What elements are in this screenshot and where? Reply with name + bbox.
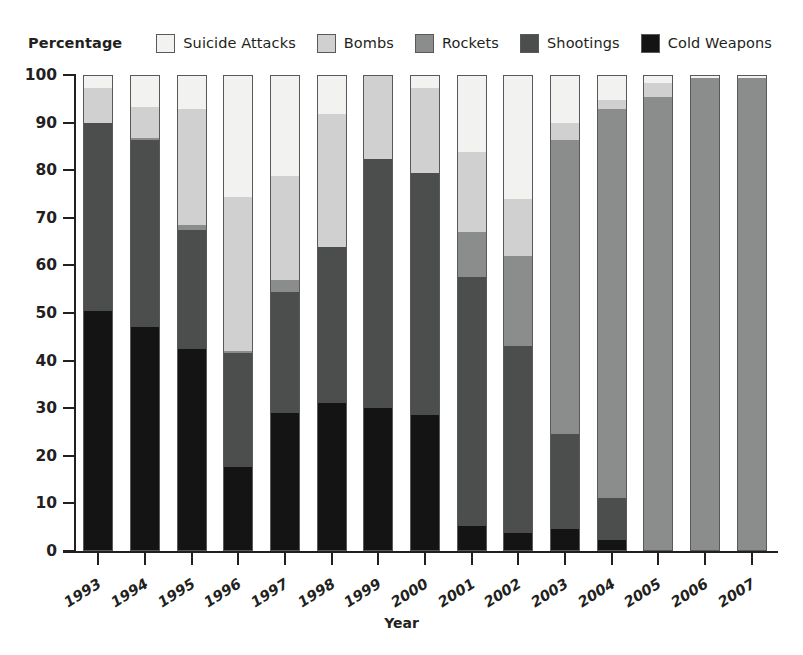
legend-item-bombs[interactable]: Bombs	[317, 34, 394, 53]
bar-1996[interactable]	[223, 75, 253, 551]
bar-segment-2001-suicide[interactable]	[458, 76, 486, 152]
bar-segment-2006-rockets[interactable]	[691, 78, 719, 550]
bar-segment-2001-cold[interactable]	[458, 526, 486, 550]
bar-1994[interactable]	[130, 75, 160, 551]
y-tick-label-0: 0	[46, 542, 57, 560]
legend-label-cold: Cold Weapons	[668, 35, 772, 51]
bar-segment-1993-suicide[interactable]	[84, 76, 112, 88]
bar-2002[interactable]	[503, 75, 533, 551]
bar-segment-2005-bombs[interactable]	[644, 83, 672, 97]
bar-2007[interactable]	[737, 75, 767, 551]
bar-segment-2002-bombs[interactable]	[504, 199, 532, 256]
bar-segment-1999-bombs[interactable]	[364, 76, 392, 159]
legend-item-suicide[interactable]: Suicide Attacks	[156, 34, 296, 53]
y-tick-label-20: 20	[35, 447, 57, 465]
bar-segment-2005-rockets[interactable]	[644, 97, 672, 550]
bar-segment-2002-shootings[interactable]	[504, 346, 532, 533]
bar-segment-2002-rockets[interactable]	[504, 256, 532, 346]
x-tick-label-1993: 1993	[61, 575, 104, 610]
bar-segment-2003-rockets[interactable]	[551, 140, 579, 434]
bar-2003[interactable]	[550, 75, 580, 551]
x-tick-2004	[611, 553, 613, 565]
bar-2001[interactable]	[457, 75, 487, 551]
bar-segment-2002-cold[interactable]	[504, 533, 532, 550]
y-tick-40: 40	[63, 360, 75, 362]
bar-segment-1995-shootings[interactable]	[178, 230, 206, 349]
bar-segment-2000-bombs[interactable]	[411, 88, 439, 173]
bar-segment-1993-cold[interactable]	[84, 311, 112, 550]
bar-segment-1999-cold[interactable]	[364, 408, 392, 550]
bar-segment-1998-bombs[interactable]	[318, 114, 346, 247]
bar-segment-1995-suicide[interactable]	[178, 76, 206, 109]
bar-segment-2000-cold[interactable]	[411, 415, 439, 550]
bar-segment-1996-bombs[interactable]	[224, 197, 252, 351]
bar-segment-1998-shootings[interactable]	[318, 247, 346, 403]
x-tick-2003	[564, 553, 566, 565]
y-tick-70: 70	[63, 217, 75, 219]
bar-segment-2005-suicide[interactable]	[644, 76, 672, 83]
bar-segment-1994-shootings[interactable]	[131, 140, 159, 327]
bar-segment-2003-suicide[interactable]	[551, 76, 579, 123]
bar-2006[interactable]	[690, 75, 720, 551]
bar-1999[interactable]	[363, 75, 393, 551]
legend-label-shootings: Shootings	[547, 35, 620, 51]
x-tick-label-1996: 1996	[201, 575, 244, 610]
bar-segment-1997-cold[interactable]	[271, 413, 299, 550]
bar-segment-1999-shootings[interactable]	[364, 159, 392, 408]
chart-legend: Percentage Suicide AttacksBombsRocketsSh…	[0, 28, 803, 58]
legend-label-rockets: Rockets	[442, 35, 499, 51]
y-tick-label-100: 100	[25, 66, 57, 84]
bar-segment-2003-bombs[interactable]	[551, 123, 579, 140]
legend-item-rockets[interactable]: Rockets	[415, 34, 499, 53]
bar-segment-2004-suicide[interactable]	[598, 76, 626, 100]
bar-segment-2007-rockets[interactable]	[738, 78, 766, 550]
bar-segment-1997-bombs[interactable]	[271, 176, 299, 280]
x-tick-label-2004: 2004	[575, 575, 618, 610]
bar-segment-2001-shootings[interactable]	[458, 277, 486, 526]
bar-segment-2004-rockets[interactable]	[598, 109, 626, 498]
bar-segment-2000-suicide[interactable]	[411, 76, 439, 88]
bar-2005[interactable]	[643, 75, 673, 551]
legend-item-shootings[interactable]: Shootings	[520, 34, 620, 53]
bar-segment-1997-rockets[interactable]	[271, 280, 299, 292]
bar-segment-2003-cold[interactable]	[551, 529, 579, 550]
bar-segment-1998-suicide[interactable]	[318, 76, 346, 114]
bar-segment-2001-bombs[interactable]	[458, 152, 486, 233]
bar-segment-1993-bombs[interactable]	[84, 88, 112, 124]
bar-1997[interactable]	[270, 75, 300, 551]
bar-1993[interactable]	[83, 75, 113, 551]
bar-1998[interactable]	[317, 75, 347, 551]
bar-segment-2004-bombs[interactable]	[598, 100, 626, 109]
bar-segment-1994-bombs[interactable]	[131, 107, 159, 138]
x-tick-1996	[237, 553, 239, 565]
legend-item-cold[interactable]: Cold Weapons	[641, 34, 772, 53]
bar-segment-1993-shootings[interactable]	[84, 123, 112, 310]
bar-segment-2000-shootings[interactable]	[411, 173, 439, 415]
y-tick-label-90: 90	[35, 114, 57, 132]
bar-segment-2004-cold[interactable]	[598, 540, 626, 549]
bar-2004[interactable]	[597, 75, 627, 551]
bar-segment-1997-shootings[interactable]	[271, 292, 299, 413]
bar-1995[interactable]	[177, 75, 207, 551]
bar-segment-1995-cold[interactable]	[178, 349, 206, 550]
x-tick-label-2000: 2000	[388, 575, 431, 610]
bar-segment-1996-suicide[interactable]	[224, 76, 252, 197]
x-tick-1993	[97, 553, 99, 565]
bar-segment-2001-rockets[interactable]	[458, 232, 486, 277]
bar-segment-2004-shootings[interactable]	[598, 498, 626, 541]
bar-2000[interactable]	[410, 75, 440, 551]
legend-swatch-cold-icon	[641, 34, 660, 53]
bar-segment-2002-suicide[interactable]	[504, 76, 532, 199]
x-tick-2001	[471, 553, 473, 565]
legend-label-bombs: Bombs	[344, 35, 394, 51]
bar-segment-2003-shootings[interactable]	[551, 434, 579, 529]
bar-segment-1996-cold[interactable]	[224, 467, 252, 550]
bar-segment-1996-shootings[interactable]	[224, 353, 252, 467]
bar-segment-1998-cold[interactable]	[318, 403, 346, 550]
bar-segment-1995-bombs[interactable]	[178, 109, 206, 225]
bar-segment-1994-cold[interactable]	[131, 327, 159, 550]
x-tick-2000	[424, 553, 426, 565]
x-tick-label-2002: 2002	[481, 575, 524, 610]
bar-segment-1997-suicide[interactable]	[271, 76, 299, 176]
bar-segment-1994-suicide[interactable]	[131, 76, 159, 107]
